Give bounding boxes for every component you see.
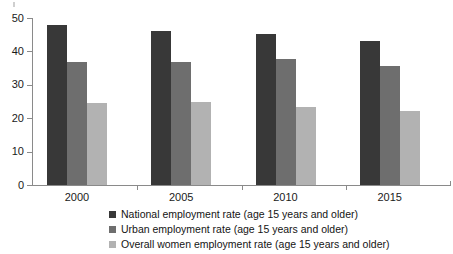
bar-group <box>151 18 211 185</box>
y-axis-tick-label: 40 <box>0 46 24 57</box>
bar <box>296 107 316 185</box>
bar-group <box>256 18 316 185</box>
legend-swatch-icon <box>109 211 116 218</box>
bar <box>171 62 191 185</box>
bar <box>151 31 171 185</box>
bar <box>87 103 107 185</box>
y-axis-tick-label: 30 <box>0 79 24 90</box>
bar <box>67 62 87 185</box>
chart-legend: National employment rate (age 15 years a… <box>109 208 449 253</box>
x-axis-end-tick <box>450 181 451 186</box>
x-axis-category-label: 2000 <box>27 192 127 203</box>
legend-swatch-icon <box>109 226 116 233</box>
bar <box>256 34 276 185</box>
x-axis-category-label: 2010 <box>236 192 336 203</box>
y-axis-tick <box>27 85 32 86</box>
y-axis-tick <box>27 185 32 186</box>
y-axis-tick <box>27 51 32 52</box>
legend-item: Overall women employment rate (age 15 ye… <box>109 238 449 251</box>
x-axis-category-label: 2005 <box>131 192 231 203</box>
bar <box>191 102 211 186</box>
y-axis-tick <box>27 118 32 119</box>
y-axis-tick-label: 0 <box>0 180 24 191</box>
x-axis-category-label: 2015 <box>340 192 440 203</box>
legend-item: Urban employment rate (age 15 years and … <box>109 223 449 236</box>
bar <box>47 25 67 185</box>
y-axis-tick-label: 20 <box>0 113 24 124</box>
plot-area: 01020304050 2000200520102015 <box>0 0 453 195</box>
legend-item-label: National employment rate (age 15 years a… <box>121 209 358 220</box>
y-axis-tick-label: 50 <box>0 13 24 24</box>
bar <box>360 41 380 185</box>
bar <box>276 59 296 185</box>
bar <box>380 66 400 185</box>
legend-item-label: Overall women employment rate (age 15 ye… <box>121 239 389 250</box>
y-axis-tick-label: 10 <box>0 146 24 157</box>
x-axis-tick <box>346 186 347 190</box>
y-axis-tick <box>27 152 32 153</box>
bars-layer <box>33 18 450 185</box>
legend-item: National employment rate (age 15 years a… <box>109 208 449 221</box>
x-axis-tick <box>137 186 138 190</box>
legend-swatch-icon <box>109 241 116 248</box>
x-axis-tick <box>242 186 243 190</box>
bar <box>400 111 420 185</box>
bar-group <box>360 18 420 185</box>
legend-item-label: Urban employment rate (age 15 years and … <box>121 224 348 235</box>
y-axis-tick <box>27 18 32 19</box>
bar-group <box>47 18 107 185</box>
grouped-bar-chart: 01020304050 2000200520102015 National em… <box>0 0 453 254</box>
